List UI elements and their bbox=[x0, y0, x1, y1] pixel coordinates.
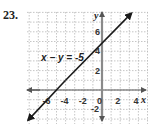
equation-label: x − y = -5 bbox=[40, 52, 84, 63]
y-tick-label: 6 bbox=[95, 27, 100, 37]
y-axis-label: y bbox=[93, 10, 99, 21]
x-tick-label: -2 bbox=[79, 96, 87, 106]
x-axis-label: x bbox=[140, 94, 146, 105]
x-tick-label: 2 bbox=[115, 96, 120, 106]
coordinate-plane: -6-4-2024642-2 x y x − y = -5 bbox=[0, 0, 158, 131]
y-tick-label: -2 bbox=[91, 104, 99, 114]
x-tick-label: 4 bbox=[133, 96, 138, 106]
y-tick-label: 2 bbox=[95, 66, 100, 76]
grid-lines bbox=[27, 12, 148, 124]
x-tick-label: -4 bbox=[61, 96, 69, 106]
